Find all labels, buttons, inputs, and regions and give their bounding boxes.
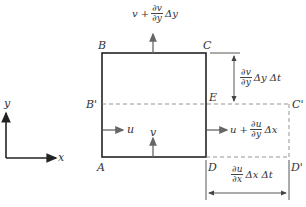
top-velocity-label: v + ∂v ∂y Δy — [132, 4, 178, 24]
point-E-label: E — [209, 92, 217, 103]
fluid-element-box — [102, 53, 206, 157]
fraction-denominator: ∂y — [151, 14, 163, 23]
y-axis-label: y — [4, 98, 10, 109]
point-A-label: A — [97, 162, 105, 173]
fraction-denominator: ∂y — [240, 78, 252, 87]
top-velocity-fraction: ∂v ∂y — [151, 4, 163, 24]
horizontal-displacement-fraction: ∂u ∂x — [231, 165, 243, 185]
right-velocity-prefix: u + — [230, 124, 248, 135]
velocity-v-label: v — [150, 127, 156, 138]
point-C-prime-label: C' — [292, 99, 303, 110]
top-velocity-suffix: Δy — [165, 8, 178, 19]
vertical-displacement-fraction: ∂v ∂y — [240, 68, 252, 88]
point-B-prime-label: B' — [86, 99, 97, 110]
point-D-prime-label: D' — [291, 162, 303, 173]
horizontal-displacement-suffix: Δx Δt — [245, 169, 272, 180]
velocity-u-label: u — [127, 124, 134, 135]
vertical-displacement-suffix: Δy Δt — [254, 72, 281, 83]
point-B-label: B — [98, 40, 106, 51]
top-velocity-prefix: v + — [132, 8, 149, 19]
vertical-displacement-label: ∂v ∂y Δy Δt — [238, 68, 281, 88]
right-velocity-suffix: Δx — [264, 124, 277, 135]
fraction-denominator: ∂y — [250, 130, 262, 139]
right-velocity-fraction: ∂u ∂y — [250, 120, 262, 140]
axes-icon — [6, 113, 56, 158]
right-velocity-label: u + ∂u ∂y Δx — [230, 120, 277, 140]
point-D-label: D — [208, 162, 217, 173]
point-C-label: C — [203, 40, 211, 51]
fraction-denominator: ∂x — [231, 175, 243, 184]
x-axis-label: x — [58, 152, 64, 163]
horizontal-displacement-label: ∂u ∂x Δx Δt — [229, 165, 273, 185]
